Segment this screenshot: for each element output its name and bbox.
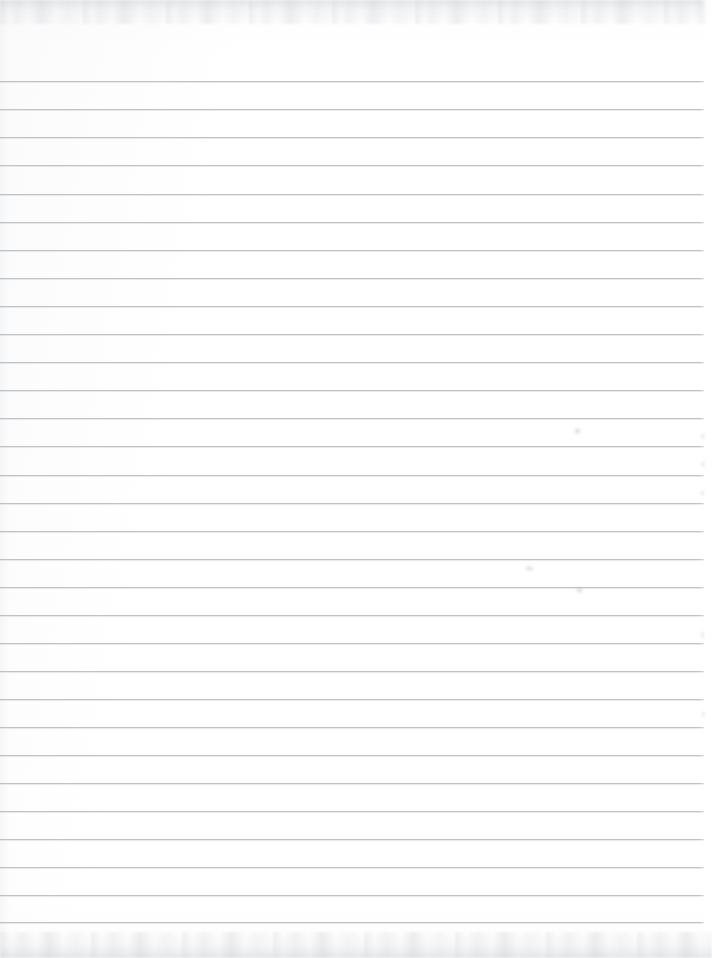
rule-line [0, 671, 704, 672]
rule-line [0, 867, 704, 868]
ruled-lines-layer [0, 0, 712, 958]
rule-line [0, 895, 704, 896]
rule-line [0, 503, 704, 504]
rule-line [0, 278, 704, 279]
scanned-page [0, 0, 712, 958]
rule-line [0, 109, 704, 110]
rule-line [0, 922, 704, 923]
rule-line [0, 475, 704, 476]
rule-line [0, 137, 704, 138]
rule-line [0, 559, 704, 560]
rule-line [0, 587, 704, 588]
rule-line [0, 81, 704, 82]
rule-line [0, 222, 704, 223]
rule-line [0, 306, 704, 307]
rule-line [0, 165, 704, 166]
rule-line [0, 643, 704, 644]
rule-line [0, 615, 704, 616]
rule-line [0, 811, 704, 812]
rule-line [0, 531, 704, 532]
rule-line [0, 727, 704, 728]
rule-line [0, 839, 704, 840]
rule-line [0, 418, 704, 419]
rule-line [0, 250, 704, 251]
rule-line [0, 446, 704, 447]
rule-line [0, 334, 704, 335]
rule-line [0, 699, 704, 700]
rule-line [0, 362, 704, 363]
rule-line [0, 783, 704, 784]
rule-line [0, 390, 704, 391]
rule-line [0, 194, 704, 195]
rule-line [0, 755, 704, 756]
